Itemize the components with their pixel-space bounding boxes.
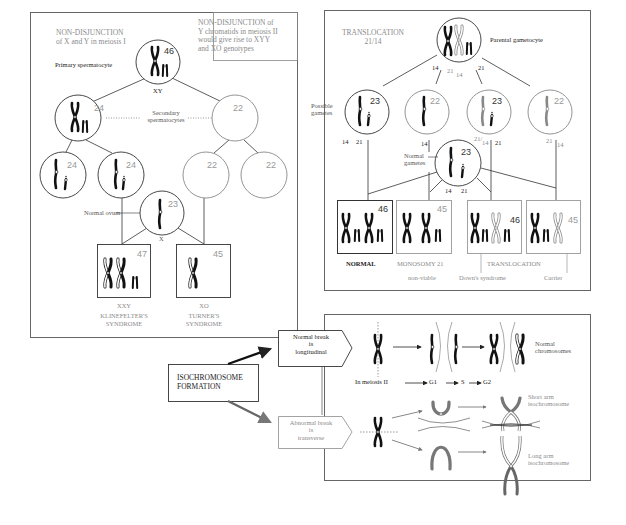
long-arm-line1: Long arm — [528, 452, 569, 459]
non-viable-label: non-viable — [408, 274, 436, 281]
downs-syndrome-label: Down's syndrome — [459, 274, 506, 281]
gamete4-label-21: 21 — [546, 137, 553, 144]
secondary-label-line2: spermatocytes — [136, 116, 196, 123]
karyotype-carrier-count: 45 — [568, 215, 578, 225]
secondary-count-right: 22 — [233, 103, 243, 113]
secondary-label-line1: Secondary — [136, 109, 196, 116]
abnormal-break-line3: transverse — [280, 434, 342, 441]
ovum-genotype: X — [159, 235, 164, 242]
long-arm-label: Long arm isochromosome — [528, 452, 569, 467]
normal-karyotype-label: NORMAL — [346, 260, 376, 267]
normal-chromosomes-line1: Normal — [535, 340, 571, 347]
short-arm-line1: Short arm — [528, 393, 569, 400]
phase-g2: G2 — [483, 378, 491, 385]
normal-break-label: Normal break is longitudinal — [280, 333, 342, 355]
primary-genotype: XY — [153, 87, 162, 94]
normal-gametes-count: 23 — [461, 147, 471, 157]
turner-line1: TURNER'S — [172, 312, 236, 319]
possible-gametes-line1: Possible — [311, 102, 333, 109]
normal-chromosomes-label: Normal chromosomes — [535, 340, 571, 355]
parent-split-21: 21 — [478, 64, 485, 71]
phase-g1: G1 — [429, 378, 437, 385]
ovum-count: 23 — [168, 199, 178, 209]
karyotype-normal-count: 46 — [378, 204, 388, 214]
meiosis-ii-label: In meiosis II — [355, 378, 388, 385]
trans-gamete-count-4: 22 — [554, 96, 564, 106]
xxy-count: 47 — [137, 249, 147, 259]
parent-split-14: 14 — [432, 64, 439, 71]
translocation-title-line2: 21/14 — [337, 38, 409, 47]
nondisjunction-title-line2: of X and Y in meiosis I — [56, 38, 126, 47]
gamete-count-2: 24 — [126, 160, 136, 170]
klinefelter-line1: KLINEFELTER'S — [92, 312, 156, 319]
xo-count: 45 — [213, 249, 223, 259]
long-arm-line2: isochromosome — [528, 459, 569, 466]
primary-spermatocyte-label: Primary spermatocyte — [55, 61, 112, 68]
abnormal-break-label: Abnormal break is transverse — [280, 419, 342, 441]
normal-break-line1: Normal break — [280, 333, 342, 340]
short-arm-label: Short arm isochromosome — [528, 393, 569, 408]
possible-gametes-label: Possible gametes — [311, 102, 333, 117]
trans-gamete-count-1: 23 — [370, 96, 380, 106]
abnormal-break-line2: is — [280, 426, 342, 433]
translocation-title: TRANSLOCATION 21/14 — [337, 29, 409, 46]
normal-gametes-label: Normal gametes — [404, 152, 425, 167]
monosomy-label: MONOSOMY 21 — [397, 260, 444, 267]
turner-label: XO TURNER'S SYNDROME — [172, 302, 236, 327]
normal-ovum-label: Normal ovum — [84, 209, 120, 216]
gamete1-label-21: 21 — [356, 138, 363, 145]
note-line4: and XO genotypes — [198, 45, 278, 54]
karyotype-monosomy-count: 45 — [437, 204, 447, 214]
secondary-count-left: 24 — [94, 103, 104, 113]
xxy-genotype: XXY — [92, 302, 156, 309]
secondary-spermatocytes-label: Secondary spermatocytes — [136, 109, 196, 124]
translocation-panel-graphics — [325, 11, 591, 291]
xo-genotype: XO — [172, 302, 236, 309]
gamete3-label-14: 14 — [482, 139, 489, 146]
parent-split-14-gray: 14 — [456, 71, 463, 78]
normal-break-line2: is — [280, 340, 342, 347]
trans-gamete-count-2: 22 — [430, 96, 440, 106]
klinefelter-label: XXY KLINEFELTER'S SYNDROME — [92, 302, 156, 327]
parental-gametocyte-label: Parental gametocyte — [490, 36, 543, 43]
normal-gametes-line2: gametes — [404, 159, 425, 166]
normal-chromosomes-line2: chromosomes — [535, 347, 571, 354]
normal-gametes-21: 21 — [461, 187, 468, 194]
gamete3-label-21b: 21 — [495, 139, 502, 146]
gamete-count-3: 22 — [207, 160, 217, 170]
klinefelter-line2: SYNDROME — [92, 320, 156, 327]
gamete-count-1: 24 — [67, 160, 77, 170]
carrier-label: Carrier — [544, 274, 562, 281]
isochromosome-line2: FORMATION — [177, 383, 243, 392]
turner-line2: SYNDROME — [172, 320, 236, 327]
normal-break-line3: longitudinal — [280, 348, 342, 355]
gamete1-label-14: 14 — [342, 138, 349, 145]
possible-gametes-line2: gametes — [311, 109, 333, 116]
abnormal-break-line1: Abnormal break — [280, 419, 342, 426]
short-arm-line2: isochromosome — [528, 400, 569, 407]
normal-gametes-line1: Normal — [404, 152, 425, 159]
phase-s: S — [461, 378, 465, 385]
trans-gamete-count-3: 23 — [492, 96, 502, 106]
gamete4-label-14: 14 — [557, 141, 564, 148]
parent-split-21-gray: 21 — [447, 67, 454, 74]
nondisjunction-title: NON-DISJUNCTION of X and Y in meiosis I — [56, 29, 126, 46]
isochromosome-formation-label: ISOCHROMOSOME FORMATION — [177, 374, 243, 391]
primary-count: 46 — [164, 46, 174, 56]
normal-gametes-14: 14 — [445, 187, 452, 194]
gamete2-label-14: 14 — [421, 140, 428, 147]
karyotype-down-count: 46 — [510, 215, 520, 225]
gamete-count-4: 22 — [266, 160, 276, 170]
meiosis-ii-note: NON-DISJUNCTION of Y chromatids in meios… — [198, 19, 278, 54]
translocation-group-label: TRANSLOCATION — [487, 260, 541, 267]
